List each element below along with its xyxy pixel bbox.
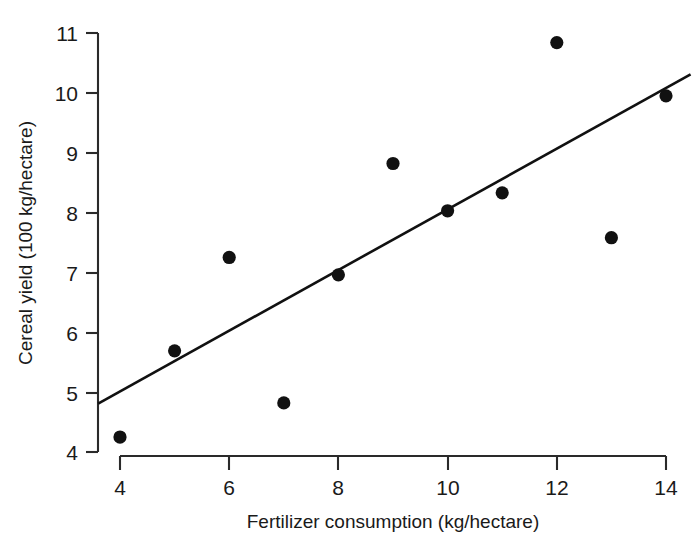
x-tick-label: 10 xyxy=(436,476,459,499)
y-tick-label: 8 xyxy=(66,202,78,225)
data-point xyxy=(605,231,618,244)
x-tick-label: 8 xyxy=(332,476,344,499)
regression-trendline xyxy=(98,74,690,403)
x-axis-tick-labels: 4 6 8 10 12 14 xyxy=(114,476,678,499)
data-point xyxy=(168,344,181,357)
data-point xyxy=(441,204,454,217)
y-tick-label: 9 xyxy=(66,142,78,165)
x-tick-label: 14 xyxy=(654,476,678,499)
x-axis-ticks xyxy=(120,456,666,470)
y-axis-title: Cereal yield (100 kg/hectare) xyxy=(15,121,36,365)
data-point xyxy=(386,157,399,170)
data-point xyxy=(113,430,126,443)
y-tick-label: 4 xyxy=(66,441,78,464)
data-point xyxy=(223,251,236,264)
scatter-plot-figure: 11 10 9 8 7 6 5 4 4 6 8 10 12 14 xyxy=(0,0,699,543)
y-axis-tick-labels: 11 10 9 8 7 6 5 4 xyxy=(55,22,79,464)
data-point xyxy=(550,36,563,49)
y-tick-label: 7 xyxy=(66,262,78,285)
x-tick-label: 4 xyxy=(114,476,126,499)
x-axis-title: Fertilizer consumption (kg/hectare) xyxy=(247,511,540,532)
y-tick-label: 6 xyxy=(66,322,78,345)
data-point xyxy=(496,186,509,199)
data-point xyxy=(332,268,345,281)
y-tick-label: 11 xyxy=(56,22,78,45)
x-tick-label: 12 xyxy=(545,476,568,499)
data-point xyxy=(659,89,672,102)
data-point xyxy=(277,396,290,409)
plot-canvas: 11 10 9 8 7 6 5 4 4 6 8 10 12 14 xyxy=(0,0,699,543)
y-tick-label: 5 xyxy=(66,382,78,405)
y-axis-ticks xyxy=(86,33,98,452)
x-tick-label: 6 xyxy=(223,476,235,499)
y-tick-label: 10 xyxy=(55,82,78,105)
